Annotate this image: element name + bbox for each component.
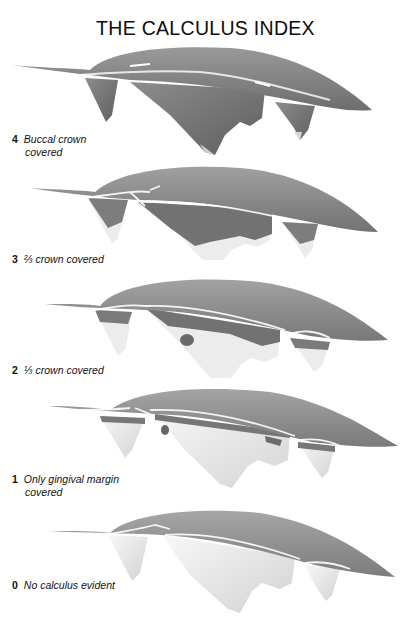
score-number: 3	[12, 253, 18, 266]
tooth-illustration	[0, 495, 411, 619]
score-number: 1	[12, 473, 18, 486]
illustration-score-3: 3⅔ crown covered	[0, 150, 411, 260]
page-title: THE CALCULUS INDEX	[0, 17, 411, 40]
caption-text: Only gingival margin	[24, 473, 119, 485]
score-number: 2	[12, 364, 18, 377]
tooth-illustration	[0, 268, 411, 378]
illustration-score-1: 1Only gingival margin covered	[0, 380, 411, 490]
tooth-illustration	[0, 150, 411, 260]
caption-text: No calculus evident	[24, 579, 115, 591]
caption-score-2: 2⅓ crown covered	[12, 364, 104, 377]
caption-text: Buccal crown	[24, 133, 86, 145]
score-number: 4	[12, 133, 18, 146]
score-number: 0	[12, 579, 18, 592]
caption-text: ⅓ crown covered	[24, 364, 104, 376]
caption-score-3: 3⅔ crown covered	[12, 253, 104, 266]
illustration-score-0: 0No calculus evident	[0, 495, 411, 619]
caption-text: ⅔ crown covered	[24, 253, 104, 265]
caption-score-0: 0No calculus evident	[12, 579, 115, 592]
illustration-score-4: 4Buccal crown covered	[0, 40, 411, 160]
illustration-score-2: 2⅓ crown covered	[0, 268, 411, 378]
